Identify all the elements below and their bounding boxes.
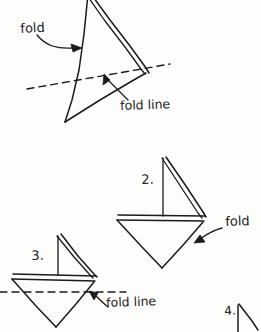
- figure-4-edge-right: [239, 304, 258, 330]
- figure-3-right-edge-inner: [57, 236, 93, 278]
- figure-2-group: [117, 157, 222, 268]
- figure-1-fold-arrowhead: [71, 44, 82, 52]
- figure-2-right-edge-inner: [162, 158, 202, 218]
- figure-1-fold-line-label: fold line: [120, 98, 170, 112]
- figure-3-step-label: 3.: [31, 249, 44, 262]
- figure-1-right-edge-outer: [91, 0, 149, 73]
- figure-3-flap-left: [12, 279, 56, 327]
- figure-4-step-label: 4.: [224, 304, 236, 317]
- figure-1-triangle-left-edge: [65, 0, 88, 122]
- figure-2-flap-left: [117, 220, 162, 268]
- figure-2-fold-label: fold: [225, 214, 250, 228]
- figure-3-flap-right: [56, 282, 94, 327]
- figure-3-group: [0, 234, 126, 327]
- figure-1-fold-line-dashed: [27, 64, 170, 89]
- figure-3-fold-line-label: fold line: [106, 295, 156, 309]
- figure-3-fold-band-bottom: [12, 279, 95, 281]
- figure-2-fold-band-top: [118, 215, 205, 216]
- figure-1-right-edge-inner: [86, 0, 145, 74]
- figure-1-fold-label: fold: [20, 21, 45, 35]
- figure-3-foldline-arrowhead: [89, 291, 98, 300]
- drawing-sheet: fold fold line 2. fold 3. fold line 4.: [0, 0, 261, 332]
- figure-2-fold-arrow-line: [200, 228, 222, 239]
- figure-1-foldline-arrowhead: [103, 74, 110, 85]
- figure-3-fold-band-top: [13, 274, 96, 276]
- figure-2-flap-right: [162, 222, 203, 268]
- figure-3-right-edge-outer: [61, 234, 97, 277]
- origami-diagram: [0, 0, 261, 332]
- figure-2-right-edge-outer: [166, 157, 206, 217]
- figure-4-group: [238, 304, 258, 332]
- figure-2-step-label: 2.: [141, 173, 154, 186]
- figure-2-fold-band-bottom: [117, 220, 204, 221]
- figure-1-fold-arrow-curve: [37, 35, 73, 48]
